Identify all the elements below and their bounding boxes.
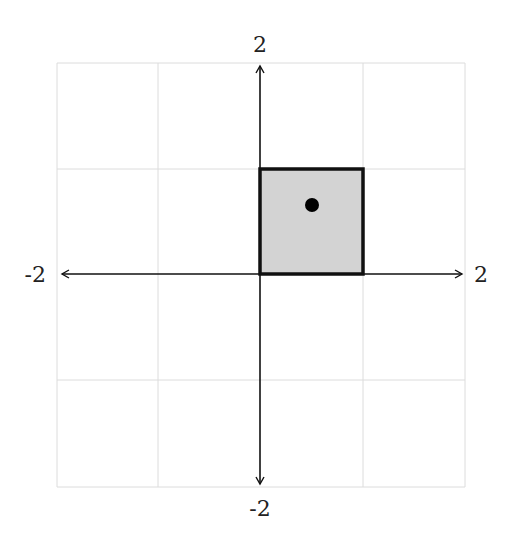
y-min-label: -2 xyxy=(249,496,270,521)
unit-square xyxy=(260,169,363,274)
coordinate-plane: 2 -2 -2 2 xyxy=(0,0,509,542)
data-point xyxy=(305,198,319,212)
x-min-label: -2 xyxy=(25,262,46,287)
x-max-label: 2 xyxy=(474,262,488,287)
y-max-label: 2 xyxy=(253,32,267,57)
